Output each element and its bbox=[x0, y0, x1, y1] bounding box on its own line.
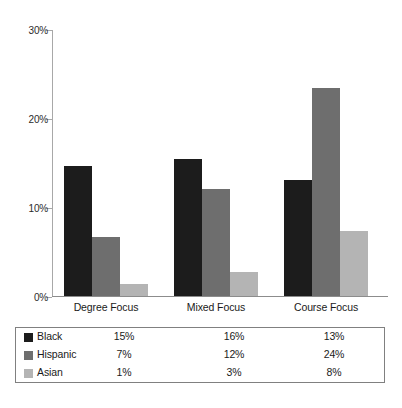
bar bbox=[120, 284, 148, 296]
bar bbox=[284, 180, 312, 296]
legend-value-cell: 13% bbox=[314, 330, 354, 342]
legend-color-swatch bbox=[24, 351, 33, 360]
legend-value-cell: 8% bbox=[314, 366, 354, 378]
legend-value-cell: 12% bbox=[214, 348, 254, 360]
legend-value-cell: 7% bbox=[104, 348, 144, 360]
legend-color-swatch bbox=[24, 333, 33, 342]
bar bbox=[340, 231, 368, 296]
grouped-bar-chart: 0%10%20%30% Degree FocusMixed FocusCours… bbox=[0, 0, 402, 408]
legend-value-cell: 16% bbox=[214, 330, 254, 342]
bar bbox=[230, 272, 258, 296]
legend-row: Black15%16%13% bbox=[16, 329, 384, 346]
x-axis-category-label: Course Focus bbox=[264, 301, 388, 313]
legend-data-table: Black15%16%13%Hispanic7%12%24%Asian1%3%8… bbox=[15, 327, 385, 383]
legend-series-name: Asian bbox=[37, 366, 63, 378]
bar bbox=[174, 159, 202, 296]
bar-group bbox=[64, 30, 148, 296]
legend-row: Hispanic7%12%24% bbox=[16, 347, 384, 364]
legend-color-swatch bbox=[24, 369, 33, 378]
x-axis-category-label: Mixed Focus bbox=[154, 301, 278, 313]
bars-layer bbox=[53, 30, 388, 296]
legend-value-cell: 24% bbox=[314, 348, 354, 360]
bar bbox=[312, 88, 340, 296]
bar bbox=[92, 237, 120, 296]
bar-group bbox=[174, 30, 258, 296]
plot-area: 0%10%20%30% bbox=[52, 30, 388, 297]
legend-row: Asian1%3%8% bbox=[16, 365, 384, 382]
bar bbox=[202, 189, 230, 296]
legend-value-cell: 1% bbox=[104, 366, 144, 378]
bar bbox=[64, 166, 92, 296]
legend-series-name: Hispanic bbox=[37, 348, 76, 360]
legend-value-cell: 3% bbox=[214, 366, 254, 378]
y-axis-tick-label: 10% bbox=[29, 203, 48, 214]
bar-group bbox=[284, 30, 368, 296]
legend-series-name: Black bbox=[37, 330, 62, 342]
y-axis-tick-label: 30% bbox=[29, 25, 48, 36]
x-axis-line bbox=[52, 296, 388, 297]
y-axis-tick-label: 20% bbox=[29, 114, 48, 125]
x-axis-category-label: Degree Focus bbox=[44, 301, 168, 313]
legend-value-cell: 15% bbox=[104, 330, 144, 342]
